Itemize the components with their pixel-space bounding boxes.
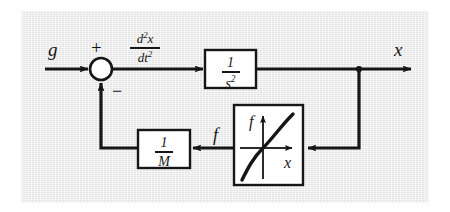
acceleration-numerator: d2x bbox=[123, 31, 167, 47]
input-signal-label: g bbox=[48, 40, 58, 59]
inverse-mass-denominator: M bbox=[138, 153, 190, 169]
feedback-force-label: f bbox=[213, 126, 218, 144]
nonlinearity-f-axis-label: f bbox=[249, 114, 253, 130]
feedback-line-from-output bbox=[308, 69, 359, 148]
double-integrator-numerator: 1 bbox=[205, 55, 256, 71]
acceleration-label: d2x dt2 bbox=[123, 31, 167, 65]
summing-junction-circle bbox=[90, 58, 112, 80]
block-diagram-figure: g + − d2x dt2 1 s2 1 M x f f x bbox=[0, 0, 450, 212]
inverse-mass-numerator: 1 bbox=[138, 135, 190, 151]
double-integrator-denominator: s2 bbox=[205, 73, 256, 91]
inverse-mass-expression: 1 M bbox=[138, 135, 190, 169]
nonlinearity-x-axis-label: x bbox=[284, 155, 291, 171]
acceleration-denominator: dt2 bbox=[123, 49, 167, 65]
double-integrator-expression: 1 s2 bbox=[205, 55, 256, 90]
diagram-vector-layer bbox=[0, 0, 450, 212]
plus-sign-label: + bbox=[91, 38, 102, 57]
minus-sign-label: − bbox=[112, 82, 122, 100]
output-signal-label: x bbox=[394, 40, 402, 59]
